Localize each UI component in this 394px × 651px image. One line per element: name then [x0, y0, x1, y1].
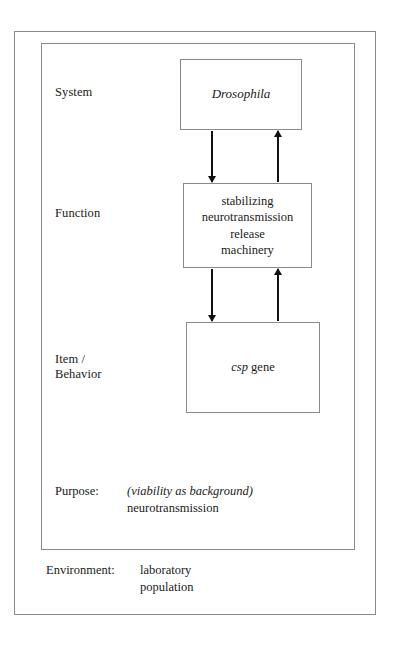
environment-row: Environment: laboratory population [46, 562, 193, 596]
node-box-item: csp gene [186, 322, 320, 413]
arrow-head-up-icon [274, 130, 282, 137]
node-label-csp-italic: csp [231, 360, 248, 374]
arrow-shaft [277, 269, 279, 321]
arrow-head-down-icon [208, 176, 216, 183]
row-label-item-behavior: Item / Behavior [55, 352, 102, 382]
node-label-function: stabilizing neurotransmission release ma… [202, 193, 294, 259]
purpose-value-italic: (viability as background) [127, 484, 253, 498]
arrow-shaft [211, 269, 213, 321]
node-box-system: Drosophila [180, 59, 302, 130]
node-label-csp-gene: csp gene [231, 359, 274, 376]
node-box-function: stabilizing neurotransmission release ma… [183, 183, 312, 268]
environment-key-label: Environment: [46, 562, 140, 579]
purpose-value-roman: neurotransmission [127, 501, 219, 515]
row-label-system: System [55, 85, 92, 100]
purpose-row: Purpose: (viability as background)neurot… [55, 483, 253, 517]
arrow-shaft [277, 131, 279, 182]
purpose-value: (viability as background)neurotransmissi… [127, 483, 253, 517]
figure-canvas: System Function Item / Behavior Drosophi… [0, 0, 394, 651]
row-label-function: Function [55, 206, 100, 221]
arrow-shaft [211, 131, 213, 182]
arrow-head-down-icon [208, 315, 216, 322]
environment-value: laboratory population [140, 562, 193, 596]
node-label-drosophila: Drosophila [212, 86, 271, 103]
node-label-gene-roman: gene [248, 360, 275, 374]
purpose-key-label: Purpose: [55, 483, 127, 500]
arrow-head-up-icon [274, 268, 282, 275]
